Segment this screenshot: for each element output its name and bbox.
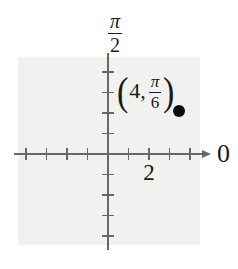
vertical-axis-label-pi-over-2: π 2 (105, 11, 125, 55)
polar-axis-tick (148, 148, 150, 160)
vertical-axis-tick (102, 133, 114, 135)
tick-label-2: 2 (141, 161, 157, 184)
vertical-axis-tick (102, 215, 114, 217)
vertical-axis-line (107, 53, 109, 250)
pi-over-2-denominator: 2 (110, 34, 120, 56)
open-paren: ( (117, 72, 128, 112)
point-coordinate-label: ( 4, π 6 ) (116, 71, 176, 113)
close-paren: ) (163, 72, 174, 112)
vertical-axis-tick (102, 174, 114, 176)
polar-axis-tick (189, 148, 191, 160)
vertical-axis-tick (102, 71, 114, 73)
vertical-axis-tick (102, 112, 114, 114)
point-r-value: 4, (129, 80, 146, 102)
polar-axis-arrowhead-icon (202, 150, 211, 158)
polar-axis-tick (66, 148, 68, 160)
point-theta-fraction: π 6 (149, 73, 162, 111)
polar-axis-tick (46, 148, 48, 160)
polar-axis-tick (128, 148, 130, 160)
polar-axis-tick (169, 148, 171, 160)
polar-plot-figure: π 2 0 2 ( 4, π 6 ) (0, 0, 238, 269)
point-theta-denominator: 6 (151, 93, 160, 112)
polar-axis-label-zero: 0 (217, 141, 230, 167)
vertical-axis-tick (102, 194, 114, 196)
vertical-axis-tick (102, 235, 114, 237)
pi-over-2-numerator: π (108, 11, 122, 34)
plotted-point-dot (173, 105, 185, 117)
point-theta-numerator: π (149, 73, 162, 93)
polar-axis-tick (25, 148, 27, 160)
polar-axis-tick (87, 148, 89, 160)
vertical-axis-tick (102, 92, 114, 94)
polar-axis-line (14, 153, 204, 155)
